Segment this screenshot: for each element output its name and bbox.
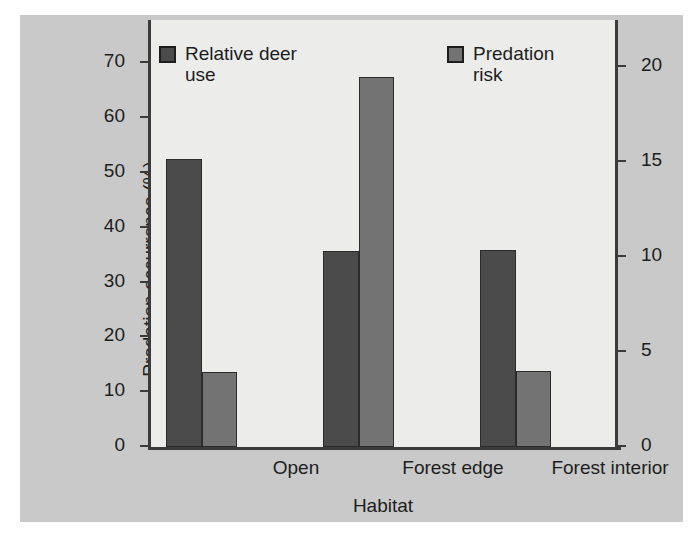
y-tick-right-5: 5: [615, 350, 626, 352]
plot-area: 0 10 20 30 40 50 60 70: [148, 20, 618, 450]
y-tick-left-40: 40: [140, 226, 151, 228]
y-tick-left-20: 20: [140, 335, 151, 337]
y-tick-left-label-40: 40: [104, 215, 125, 237]
legend-label-predation-risk: Predation risk: [473, 43, 568, 86]
y-tick-left-label-0: 0: [114, 434, 125, 456]
y-tick-left-10: 10: [140, 390, 151, 392]
legend-item-predation-risk: Predation risk: [447, 43, 568, 86]
x-tick-label-forest-edge: Forest edge: [402, 457, 503, 479]
y-tick-right-label-5: 5: [641, 339, 652, 361]
bar-relative-deer-use-open: [166, 159, 202, 447]
y-tick-left-label-10: 10: [104, 379, 125, 401]
x-axis-title: Habitat: [148, 495, 618, 517]
bar-relative-deer-use-forest-interior: [480, 250, 516, 447]
figure-card: Predation occurrence (%) Relative deer u…: [20, 15, 683, 522]
y-tick-right-10: 10: [615, 255, 626, 257]
y-tick-right-label-0: 0: [641, 434, 652, 456]
x-axis-line: [151, 447, 621, 450]
y-tick-left-50: 50: [140, 171, 151, 173]
legend-label-relative-deer-use: Relative deer use: [185, 43, 305, 86]
bar-relative-deer-use-forest-edge: [323, 251, 359, 447]
legend-swatch-icon-relative-deer-use: [159, 46, 176, 63]
y-tick-left-label-30: 30: [104, 270, 125, 292]
bar-predation-risk-forest-edge: [359, 77, 394, 447]
y-tick-left-label-60: 60: [104, 105, 125, 127]
y-tick-left-label-50: 50: [104, 160, 125, 182]
y-tick-left-label-70: 70: [104, 50, 125, 72]
legend-swatch-icon-predation-risk: [447, 46, 464, 63]
bar-predation-risk-open: [202, 372, 237, 447]
bar-predation-risk-forest-interior: [516, 371, 551, 447]
y-tick-right-15: 15: [615, 160, 626, 162]
y-tick-left-70: 70: [140, 61, 151, 63]
y-tick-right-label-15: 15: [641, 149, 662, 171]
y-tick-right-label-10: 10: [641, 244, 662, 266]
y-tick-left-60: 60: [140, 116, 151, 118]
x-tick-label-forest-interior: Forest interior: [551, 457, 668, 479]
y-tick-right-label-20: 20: [641, 54, 662, 76]
x-tick-label-open: Open: [273, 457, 319, 479]
y-tick-left-0: 0: [140, 445, 151, 447]
legend-item-relative-deer-use: Relative deer use: [159, 43, 305, 86]
y-tick-right-20: 20: [615, 65, 626, 67]
y-tick-left-30: 30: [140, 281, 151, 283]
y-tick-left-label-20: 20: [104, 324, 125, 346]
